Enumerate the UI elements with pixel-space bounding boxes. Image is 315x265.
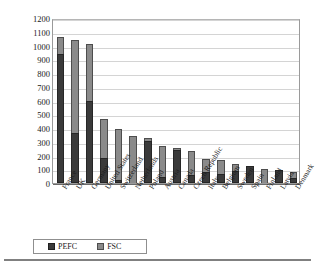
y-tick-label-800: 800 — [26, 69, 50, 80]
bar-group[interactable] — [57, 37, 65, 183]
bar-segment-pefc[interactable] — [86, 101, 94, 183]
legend-label-pefc: PEFC — [58, 242, 77, 251]
legend-item-pefc: PEFC — [48, 242, 77, 251]
bar-segment-fsc[interactable] — [100, 119, 108, 158]
chart-figure: Number of Certificates 12001100100090080… — [0, 0, 315, 265]
y-axis-tick-labels: 1200110010009008007006005004003002001000 — [26, 14, 50, 189]
bar-segment-fsc[interactable] — [86, 44, 94, 101]
y-tick-label-1000: 1000 — [26, 42, 50, 53]
plot-area — [52, 19, 300, 184]
legend-swatch-fsc — [97, 243, 104, 250]
y-tick-label-900: 900 — [26, 55, 50, 66]
y-tick-label-400: 400 — [26, 124, 50, 135]
bar-group[interactable] — [71, 40, 79, 183]
legend-item-fsc: FSC — [97, 242, 121, 251]
bar-segment-fsc[interactable] — [71, 40, 79, 133]
y-tick-label-100: 100 — [26, 165, 50, 176]
y-tick-label-600: 600 — [26, 97, 50, 108]
legend-swatch-pefc — [48, 243, 55, 250]
y-tick-label-500: 500 — [26, 110, 50, 121]
y-tick-label-200: 200 — [26, 152, 50, 163]
y-tick-label-1200: 1200 — [26, 14, 50, 25]
bar-segment-fsc[interactable] — [57, 37, 65, 54]
bar-group[interactable] — [86, 44, 94, 183]
chart-legend: PEFC FSC — [33, 239, 147, 254]
bar-series-layer — [53, 20, 299, 183]
y-tick-label-1100: 1100 — [26, 28, 50, 39]
bar-segment-pefc[interactable] — [57, 54, 65, 183]
figure-bottom-rule — [4, 259, 311, 261]
y-tick-label-300: 300 — [26, 138, 50, 149]
legend-label-fsc: FSC — [107, 242, 121, 251]
y-tick-label-700: 700 — [26, 83, 50, 94]
x-axis-category-labels: FranceUKGermanyUnited StatesSwitzerlandN… — [0, 186, 315, 244]
bar-segment-fsc[interactable] — [217, 160, 225, 174]
